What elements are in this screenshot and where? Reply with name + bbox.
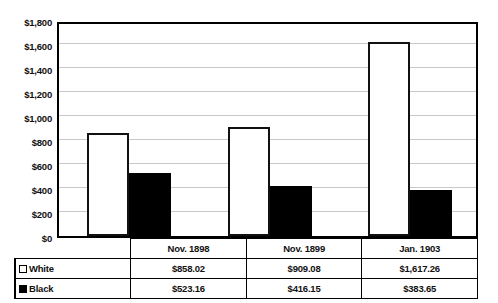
legend-item-black: Black: [15, 278, 131, 298]
bar-black-2: [410, 190, 452, 236]
table-row-white: White $858.02 $909.08 $1,617.26: [15, 258, 478, 278]
value-table: Nov. 1898 Nov. 1899 Jan. 1903 White $858…: [14, 238, 478, 299]
table-corner-blank: [15, 239, 131, 259]
table-row-black: Black $523.16 $416.15 $383.65: [15, 278, 478, 298]
bar-black-0: [129, 173, 171, 236]
category-header-2: Jan. 1903: [362, 239, 478, 259]
category-header-0: Nov. 1898: [131, 239, 247, 259]
cell-white-2: $1,617.26: [362, 258, 478, 278]
legend-swatch-black-icon: [19, 285, 27, 293]
chart-root: $0$200$400$600$800$1,000$1,200$1,400$1,6…: [0, 0, 498, 303]
y-tick-label-1600: $1,600: [0, 41, 52, 52]
y-tick-label-200: $200: [0, 209, 52, 220]
y-tick-label-1000: $1,000: [0, 113, 52, 124]
cell-white-0: $858.02: [131, 258, 247, 278]
plot-area: [57, 22, 478, 238]
legend-item-white: White: [15, 258, 131, 278]
cell-black-1: $416.15: [246, 278, 362, 298]
bar-white-1: [228, 127, 270, 236]
cell-black-2: $383.65: [362, 278, 478, 298]
y-tick-label-600: $600: [0, 161, 52, 172]
y-tick-label-800: $800: [0, 137, 52, 148]
bar-series-group: [59, 24, 476, 236]
cell-black-0: $523.16: [131, 278, 247, 298]
bar-white-0: [87, 133, 129, 236]
bar-white-2: [368, 42, 410, 236]
legend-label-white: White: [29, 263, 54, 274]
data-table: Nov. 1898 Nov. 1899 Jan. 1903 White $858…: [14, 238, 478, 300]
y-tick-label-1200: $1,200: [0, 89, 52, 100]
table-row-categories: Nov. 1898 Nov. 1899 Jan. 1903: [15, 239, 478, 259]
category-header-1: Nov. 1899: [246, 239, 362, 259]
y-tick-label-400: $400: [0, 185, 52, 196]
y-tick-label-1800: $1,800: [0, 17, 52, 28]
cell-white-1: $909.08: [246, 258, 362, 278]
bar-black-1: [270, 186, 312, 236]
y-tick-label-1400: $1,400: [0, 65, 52, 76]
legend-swatch-white-icon: [19, 265, 27, 273]
legend-label-black: Black: [29, 283, 53, 294]
